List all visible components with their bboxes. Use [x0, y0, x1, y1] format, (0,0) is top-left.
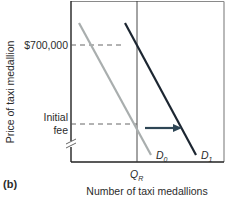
d1-sub: 1: [209, 156, 213, 163]
y-axis-label: Price of taxi medallion: [4, 30, 16, 154]
y-tick-fee: fee: [53, 124, 68, 136]
d0-main: D: [156, 149, 164, 161]
qr-main: Q: [130, 168, 138, 180]
demand-curve-d0: [79, 23, 151, 155]
demand-curve-d1: [125, 23, 196, 155]
diagram-canvas: [0, 0, 228, 198]
shift-arrow-icon: [145, 124, 182, 132]
y-tick-initial: Initial: [43, 111, 68, 123]
d0-sub: 0: [164, 156, 168, 163]
d1-label: D1: [201, 149, 213, 163]
d0-label: D0: [156, 149, 168, 163]
y-tick-700000: $700,000: [24, 39, 68, 51]
x-axis-label: Number of taxi medallions: [72, 185, 222, 197]
x-tick-qr: QR: [130, 168, 143, 182]
qr-sub: R: [138, 175, 143, 182]
d1-main: D: [201, 149, 209, 161]
panel-label: (b): [3, 178, 17, 190]
